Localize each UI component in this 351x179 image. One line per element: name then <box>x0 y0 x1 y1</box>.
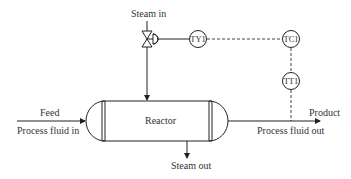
process-fluid-out-label: Process fluid out <box>257 125 324 136</box>
svg-text:TT1: TT1 <box>284 76 299 86</box>
process-fluid-in-label: Process fluid in <box>17 125 79 136</box>
control-valve-icon <box>142 31 158 47</box>
product-label: Product <box>309 107 340 118</box>
svg-text:TY1: TY1 <box>190 34 206 44</box>
instrument-tt1: TT1 <box>283 73 300 90</box>
feed-label: Feed <box>40 107 59 118</box>
process-diagram: Steam in TY1 TC1 TT1 <box>0 0 351 179</box>
steam-in-label: Steam in <box>131 8 166 19</box>
instrument-tc1: TC1 <box>283 31 300 48</box>
reactor-label: Reactor <box>145 115 177 126</box>
svg-text:TC1: TC1 <box>283 34 298 44</box>
instrument-ty1: TY1 <box>190 31 207 48</box>
steam-out-label: Steam out <box>171 160 211 171</box>
